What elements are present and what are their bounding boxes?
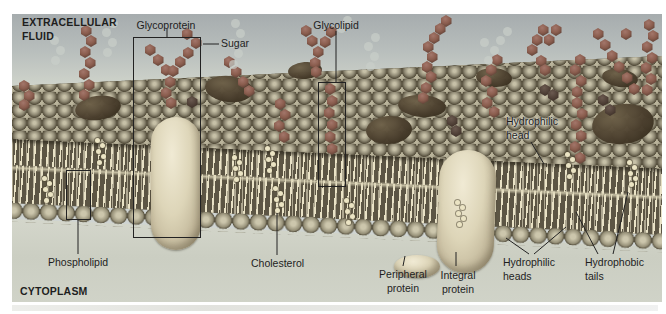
scan-artifact-strip (12, 305, 658, 311)
background-glycan-dot (370, 52, 379, 61)
cholesterol-molecule (278, 191, 283, 196)
background-glycan-dot (56, 46, 65, 55)
integral-protein-label-line1: Integral (434, 268, 482, 282)
sugar-hexagon (311, 66, 322, 78)
phospholipid-box (66, 170, 91, 220)
sugar-label: Sugar (221, 37, 249, 50)
cholesterol-molecule (265, 146, 270, 151)
sugar-hexagon (85, 57, 96, 69)
sugar-hexagon (79, 68, 90, 80)
sugar-hexagon (644, 19, 655, 31)
sugar-hexagon (418, 92, 429, 104)
sugar-hexagon (647, 52, 658, 64)
cholesterol-molecule (349, 203, 354, 208)
cholesterol-molecule (632, 165, 637, 170)
cholesterol-molecule (456, 211, 461, 216)
background-glycan-dot (366, 62, 375, 71)
sugar-hexagon (532, 34, 543, 46)
cholesterol-molecule (345, 209, 350, 214)
sugar-hexagon (486, 64, 497, 76)
sugar-hexagon (489, 106, 500, 118)
cholesterol-molecule (237, 160, 242, 165)
sugar-hexagon (280, 109, 291, 121)
cholesterol-molecule (565, 152, 570, 157)
sugar-hexagon (572, 86, 583, 98)
peripheral-protein-label-line2: protein (377, 281, 429, 295)
hydrophobic-tails-label: Hydrophobic tails (585, 255, 644, 283)
cholesterol-molecule (95, 138, 100, 143)
cholesterol-molecule (279, 202, 284, 207)
peripheral-protein-label: Peripheral protein (377, 267, 429, 295)
background-glycan-dot (231, 19, 240, 28)
glycoprotein-box (133, 37, 201, 238)
integral-protein-label: Integral protein (434, 268, 482, 296)
cholesterol-molecule (460, 205, 465, 210)
sugar-hexagon (527, 44, 538, 56)
sugar-hexagon (576, 75, 587, 87)
hydrophilic-head-label-line2: head (506, 128, 558, 142)
glycolipid-label: Glycolipid (308, 19, 364, 32)
sugar-hexagon (641, 62, 652, 74)
sugar-hexagon (646, 73, 657, 85)
background-glycan-dot (496, 36, 505, 45)
sugar-hexagon (421, 82, 432, 94)
sugar-hexagon (572, 97, 583, 109)
cholesterol-molecule (267, 168, 272, 173)
sugar-hexagon (576, 130, 587, 142)
sugar-hexagon (648, 30, 659, 42)
cholesterol-molecule (48, 192, 53, 197)
sugar-hexagon (629, 83, 640, 95)
cholesterol-molecule (100, 143, 105, 148)
hydrophilic-heads-label-line1: Hydrophilic (503, 255, 555, 269)
cholesterol-molecule (633, 176, 638, 181)
phospholipid-label: Phospholipid (48, 256, 108, 269)
background-glycan-dot (364, 42, 373, 51)
sugar-hexagon (244, 85, 255, 97)
cholesterol-molecule (266, 157, 271, 162)
sugar-hexagon (492, 54, 503, 66)
hydrophobic-tails-label-line1: Hydrophobic (585, 255, 644, 269)
sugar-hexagon (570, 141, 581, 153)
hydrophilic-heads-label: Hydrophilic heads (503, 255, 555, 283)
extracellular-fluid-label-line1: EXTRACELLULAR (22, 15, 117, 29)
cholesterol-molecule (566, 163, 571, 168)
cholesterol-molecule (571, 168, 576, 173)
cholesterol-molecule (455, 200, 460, 205)
sugar-hexagon (19, 80, 30, 92)
cholesterol-molecule (233, 166, 238, 171)
background-glycan-dot (480, 38, 489, 47)
sugar-hexagon (84, 79, 95, 91)
cholesterol-molecule (270, 151, 275, 156)
background-glycan-dot (229, 60, 238, 69)
hydrophilic-head-label: Hydrophilic head (506, 114, 558, 142)
sugar-hexagon (275, 98, 286, 110)
cholesterol-molecule (273, 186, 278, 191)
cholesterol-molecule (457, 222, 462, 227)
integral-protein-label-line2: protein (434, 282, 482, 296)
cholesterol-molecule (274, 197, 279, 202)
background-glycan-dot (51, 56, 60, 65)
cholesterol-molecule (43, 187, 48, 192)
sugar-hexagon (79, 89, 90, 101)
cholesterol-molecule (42, 176, 47, 181)
background-glycan-dot (490, 46, 499, 55)
sugar-hexagon (313, 46, 324, 58)
cholesterol-molecule (461, 216, 466, 221)
cholesterol-label: Cholesterol (251, 257, 304, 270)
sugar-hexagon (593, 28, 604, 40)
cholesterol-molecule (628, 171, 633, 176)
sugar-hexagon (570, 64, 581, 76)
sugar-hexagon (621, 28, 632, 40)
sugar-hexagon (571, 119, 582, 131)
cholesterol-molecule (629, 182, 634, 187)
extracellular-fluid-label: EXTRACELLULAR FLUID (22, 15, 117, 43)
cholesterol-molecule (344, 198, 349, 203)
cholesterol-molecule (570, 157, 575, 162)
background-glycan-dot (503, 27, 512, 36)
sugar-hexagon (274, 120, 285, 132)
sugar-hexagon (279, 131, 290, 143)
background-glycan-dot (103, 48, 112, 57)
sugar-hexagon (575, 54, 586, 66)
sugar-hexagon (575, 152, 586, 164)
cholesterol-molecule (238, 171, 243, 176)
